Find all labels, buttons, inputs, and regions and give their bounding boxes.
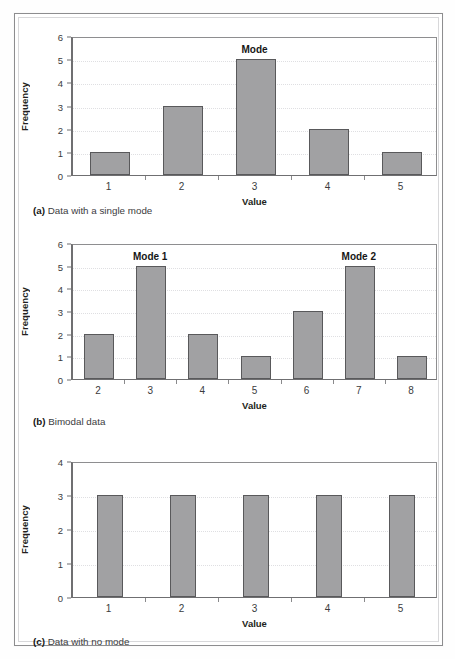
x-tick-label: 3 bbox=[252, 181, 258, 192]
y-axis-label: Frequency bbox=[19, 474, 33, 586]
y-tick-mark bbox=[67, 530, 71, 531]
caption-a-tag: (a) bbox=[33, 205, 45, 216]
y-axis-label: Frequency bbox=[19, 256, 33, 368]
y-axis-label: Frequency bbox=[19, 49, 33, 164]
chart-panel-b: Frequency01234562345678ValueMode 1Mode 2… bbox=[15, 226, 442, 442]
chart-panel-a: Frequency012345612345ValueMode (a) Data … bbox=[15, 22, 442, 222]
x-tick-label: 1 bbox=[106, 603, 112, 614]
y-tick-label: 3 bbox=[41, 491, 63, 502]
y-tick-label: 4 bbox=[41, 457, 63, 468]
x-tick-mark bbox=[145, 176, 146, 180]
x-tick-label: 2 bbox=[95, 385, 101, 396]
x-tick-label: 6 bbox=[304, 385, 310, 396]
bar bbox=[236, 59, 276, 175]
x-tick-label: 5 bbox=[252, 385, 258, 396]
y-tick-mark bbox=[67, 60, 71, 61]
x-tick-mark bbox=[176, 380, 177, 384]
caption-b-tag: (b) bbox=[33, 416, 46, 427]
caption-b: (b) Bimodal data bbox=[33, 416, 105, 427]
x-tick-mark bbox=[281, 380, 282, 384]
y-tick-mark bbox=[67, 37, 71, 38]
bar bbox=[90, 152, 130, 175]
x-tick-mark bbox=[385, 380, 386, 384]
x-tick-label: 1 bbox=[106, 181, 112, 192]
y-tick-label: 5 bbox=[41, 261, 63, 272]
bar bbox=[163, 106, 203, 176]
y-tick-mark bbox=[67, 83, 71, 84]
y-tick-label: 1 bbox=[41, 559, 63, 570]
y-axis-line bbox=[71, 462, 72, 598]
caption-b-text: Bimodal data bbox=[48, 416, 105, 427]
x-tick-mark bbox=[333, 380, 334, 384]
y-tick-label: 2 bbox=[41, 124, 63, 135]
x-tick-mark bbox=[291, 598, 292, 602]
x-tick-label: 5 bbox=[398, 603, 404, 614]
y-tick-label: 0 bbox=[41, 171, 63, 182]
x-axis-label: Value bbox=[242, 618, 267, 629]
x-tick-label: 8 bbox=[408, 385, 414, 396]
y-tick-label: 2 bbox=[41, 525, 63, 536]
y-tick-mark bbox=[67, 312, 71, 313]
bar bbox=[97, 495, 123, 597]
x-axis-label: Value bbox=[242, 196, 267, 207]
bar-series bbox=[73, 463, 436, 597]
bar-series bbox=[73, 38, 436, 175]
bar bbox=[389, 495, 415, 597]
bar bbox=[397, 356, 427, 379]
bar bbox=[241, 356, 271, 379]
y-tick-label: 0 bbox=[41, 375, 63, 386]
x-tick-mark bbox=[364, 176, 365, 180]
x-tick-label: 5 bbox=[398, 181, 404, 192]
y-tick-label: 1 bbox=[41, 147, 63, 158]
y-tick-label: 1 bbox=[41, 352, 63, 363]
y-tick-mark bbox=[67, 462, 71, 463]
plot-area bbox=[72, 462, 437, 598]
bar bbox=[293, 311, 323, 379]
bar bbox=[188, 334, 218, 379]
x-tick-label: 4 bbox=[200, 385, 206, 396]
figure-page: Frequency012345612345ValueMode (a) Data … bbox=[0, 0, 455, 659]
plot-area bbox=[72, 37, 437, 176]
bar bbox=[243, 495, 269, 597]
plot-area bbox=[72, 244, 437, 380]
x-tick-label: 4 bbox=[325, 603, 331, 614]
bar bbox=[136, 266, 166, 379]
bar bbox=[170, 495, 196, 597]
y-axis-line bbox=[71, 37, 72, 176]
y-tick-mark bbox=[67, 129, 71, 130]
x-tick-label: 3 bbox=[252, 603, 258, 614]
y-axis-line bbox=[71, 244, 72, 380]
y-tick-mark bbox=[67, 598, 71, 599]
y-tick-label: 4 bbox=[41, 284, 63, 295]
y-tick-mark bbox=[67, 334, 71, 335]
y-tick-label: 3 bbox=[41, 307, 63, 318]
bar bbox=[382, 152, 422, 175]
mode-annotation: Mode 2 bbox=[342, 251, 376, 262]
y-tick-mark bbox=[67, 176, 71, 177]
x-tick-label: 4 bbox=[325, 181, 331, 192]
x-tick-mark bbox=[145, 598, 146, 602]
x-tick-label: 7 bbox=[356, 385, 362, 396]
caption-a-text: Data with a single mode bbox=[48, 205, 153, 216]
x-tick-label: 3 bbox=[147, 385, 153, 396]
bar bbox=[316, 495, 342, 597]
bar bbox=[309, 129, 349, 175]
y-tick-mark bbox=[67, 496, 71, 497]
mode-annotation: Mode bbox=[241, 44, 267, 55]
caption-c-tag: (c) bbox=[33, 636, 45, 647]
y-tick-mark bbox=[67, 266, 71, 267]
y-tick-mark bbox=[67, 152, 71, 153]
caption-c: (c) Data with no mode bbox=[33, 636, 129, 647]
x-tick-label: 2 bbox=[179, 603, 185, 614]
y-tick-mark bbox=[67, 357, 71, 358]
y-tick-label: 6 bbox=[41, 239, 63, 250]
y-tick-label: 4 bbox=[41, 78, 63, 89]
bar bbox=[345, 266, 375, 379]
y-tick-mark bbox=[67, 564, 71, 565]
figure-frame: Frequency012345612345ValueMode (a) Data … bbox=[14, 13, 443, 646]
y-tick-label: 0 bbox=[41, 593, 63, 604]
bar bbox=[84, 334, 114, 379]
x-tick-mark bbox=[124, 380, 125, 384]
y-tick-label: 2 bbox=[41, 329, 63, 340]
y-tick-mark bbox=[67, 380, 71, 381]
